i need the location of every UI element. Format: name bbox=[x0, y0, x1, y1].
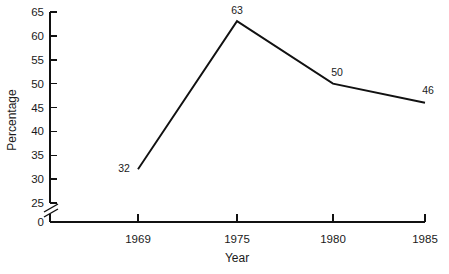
y-axis-break-icon bbox=[44, 204, 58, 217]
y-tick-label-45: 45 bbox=[31, 102, 44, 114]
data-label-1969: 32 bbox=[118, 162, 130, 174]
line-chart: Percentage 65 60 55 50 45 40 bbox=[0, 0, 449, 274]
x-tick-label-1969: 1969 bbox=[125, 233, 151, 245]
x-tick-label-1975: 1975 bbox=[224, 233, 250, 245]
x-axis-ticks bbox=[138, 214, 425, 222]
y-tick-label-60: 60 bbox=[31, 30, 44, 42]
y-axis-ticks bbox=[50, 12, 57, 203]
x-axis-title: Year bbox=[225, 251, 249, 265]
y-tick-label-30: 30 bbox=[31, 173, 44, 185]
y-tick-label-25: 25 bbox=[31, 197, 44, 209]
y-tick-label-35: 35 bbox=[31, 149, 44, 161]
data-series-line bbox=[138, 21, 425, 169]
y-tick-label-40: 40 bbox=[31, 125, 44, 137]
data-label-1980: 50 bbox=[331, 66, 343, 78]
x-tick-label-1985: 1985 bbox=[412, 233, 438, 245]
data-label-1975: 63 bbox=[231, 4, 243, 16]
y-tick-label-0: 0 bbox=[38, 216, 44, 228]
chart-canvas: Percentage 65 60 55 50 45 40 bbox=[0, 0, 449, 274]
y-tick-label-50: 50 bbox=[31, 78, 44, 90]
x-tick-label-1980: 1980 bbox=[320, 233, 346, 245]
y-tick-label-65: 65 bbox=[31, 6, 44, 18]
data-label-1985: 46 bbox=[422, 84, 434, 96]
y-tick-label-55: 55 bbox=[31, 54, 44, 66]
y-axis-title: Percentage bbox=[5, 89, 19, 151]
